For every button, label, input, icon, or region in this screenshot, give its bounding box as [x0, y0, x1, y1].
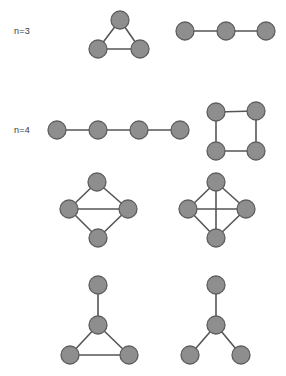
graph-node: [48, 121, 66, 139]
graph-node: [111, 11, 129, 29]
path-p3-nodes: [176, 22, 275, 40]
graph-node: [89, 40, 107, 58]
graph-node: [88, 173, 106, 191]
graph-node: [131, 40, 149, 58]
graph-node: [247, 102, 265, 120]
graph-node: [89, 121, 107, 139]
graph-node: [232, 346, 250, 364]
graph-node: [217, 22, 235, 40]
graph-node: [207, 173, 225, 191]
graph-node: [130, 121, 148, 139]
graph-node: [207, 103, 225, 121]
graph-node: [181, 346, 199, 364]
graph-path-p3: [176, 22, 275, 40]
graph-node: [176, 22, 194, 40]
label-n3: n=3: [14, 26, 30, 36]
graph-node: [171, 121, 189, 139]
graph-node: [207, 316, 225, 334]
graph-enumeration-figure: n=3n=4: [0, 0, 286, 376]
graph-node: [61, 346, 79, 364]
graph-node: [207, 276, 225, 294]
graph-node: [119, 200, 137, 218]
graph-node: [207, 229, 225, 247]
graph-node: [60, 200, 78, 218]
graph-node: [247, 142, 265, 160]
graph-node: [237, 200, 255, 218]
graph-node: [257, 22, 275, 40]
graph-node: [179, 200, 197, 218]
graph-node: [89, 316, 107, 334]
label-n4: n=4: [14, 125, 30, 135]
graph-node: [89, 276, 107, 294]
graph-node: [89, 229, 107, 247]
graph-node: [120, 346, 138, 364]
graph-node: [207, 142, 225, 160]
